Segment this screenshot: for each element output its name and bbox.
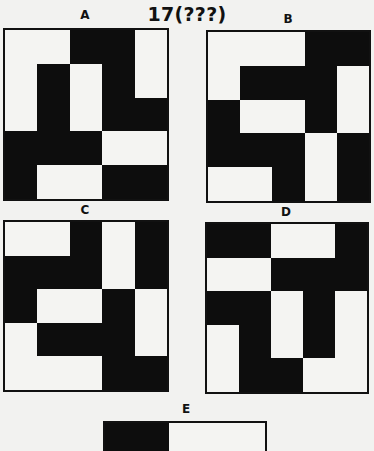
grid-cell [102, 30, 134, 64]
grid-cell [102, 165, 134, 199]
grid-cell [5, 356, 37, 390]
grid-cell [37, 289, 69, 323]
panel-label-b: B [278, 12, 298, 26]
puzzle-title: 17(???) [0, 3, 374, 25]
grid-cell [5, 64, 37, 98]
grid-cell [240, 32, 272, 66]
grid-cell [272, 133, 304, 167]
grid-cell [201, 423, 233, 451]
panel-a[interactable] [3, 28, 169, 201]
panel-d[interactable] [205, 222, 369, 394]
grid-cell [208, 133, 240, 167]
grid-cell [271, 258, 303, 292]
grid-cell [233, 423, 265, 451]
grid-cell [135, 289, 167, 323]
grid-cell [337, 66, 369, 100]
grid-cell [135, 323, 167, 357]
grid-cell [70, 289, 102, 323]
grid-cell [135, 30, 167, 64]
grid-cell [271, 358, 303, 392]
grid-cell [135, 222, 167, 256]
panel-c[interactable] [3, 220, 169, 392]
grid-cell [337, 167, 369, 201]
grid-cell [239, 291, 271, 325]
grid-cell [135, 256, 167, 290]
grid-cell [5, 131, 37, 165]
grid-cell [239, 258, 271, 292]
grid-cell [335, 291, 367, 325]
grid-cell [207, 325, 239, 359]
grid-cell [70, 131, 102, 165]
grid-cell [37, 356, 69, 390]
grid-cell [303, 358, 335, 392]
grid-cell [37, 323, 69, 357]
grid-cell [135, 64, 167, 98]
grid-cell [5, 222, 37, 256]
grid-cell [70, 323, 102, 357]
panel-b[interactable] [206, 30, 371, 203]
grid-cell [271, 325, 303, 359]
grid-cell [5, 256, 37, 290]
grid-cell [303, 224, 335, 258]
grid-cell [169, 423, 201, 451]
grid-cell [102, 356, 134, 390]
grid-cell [37, 131, 69, 165]
grid-cell [70, 256, 102, 290]
grid-cell [208, 32, 240, 66]
grid-cell [102, 323, 134, 357]
grid-cell [337, 133, 369, 167]
grid-cell [207, 358, 239, 392]
grid-cell [239, 358, 271, 392]
grid-cell [70, 30, 102, 64]
grid-cell [272, 100, 304, 134]
grid-cell [37, 98, 69, 132]
grid-cell [102, 256, 134, 290]
grid-cell [5, 98, 37, 132]
grid-cell [70, 165, 102, 199]
grid-cell [335, 224, 367, 258]
grid-cell [207, 224, 239, 258]
grid-cell [70, 98, 102, 132]
grid-cell [102, 98, 134, 132]
grid-cell [272, 66, 304, 100]
grid-cell [37, 256, 69, 290]
grid-cell [135, 131, 167, 165]
grid-cell [272, 32, 304, 66]
grid-cell [335, 258, 367, 292]
panel-label-a: A [75, 8, 95, 22]
panel-label-c: C [75, 203, 95, 217]
grid-cell [37, 30, 69, 64]
grid-cell [271, 291, 303, 325]
grid-cell [240, 167, 272, 201]
grid-cell [70, 356, 102, 390]
grid-cell [240, 66, 272, 100]
grid-cell [102, 289, 134, 323]
grid-cell [239, 325, 271, 359]
grid-cell [137, 423, 169, 451]
grid-cell [208, 167, 240, 201]
grid-cell [70, 64, 102, 98]
grid-cell [70, 222, 102, 256]
grid-cell [240, 133, 272, 167]
grid-cell [37, 64, 69, 98]
grid-cell [303, 258, 335, 292]
grid-cell [239, 224, 271, 258]
grid-cell [5, 30, 37, 64]
grid-cell [335, 358, 367, 392]
grid-cell [303, 291, 335, 325]
grid-cell [305, 32, 337, 66]
grid-cell [208, 66, 240, 100]
grid-cell [240, 100, 272, 134]
panel-label-e: E [176, 402, 196, 416]
panel-label-d: D [276, 205, 296, 219]
grid-cell [135, 98, 167, 132]
grid-cell [135, 356, 167, 390]
panel-e[interactable] [103, 421, 267, 451]
grid-cell [337, 32, 369, 66]
grid-cell [135, 165, 167, 199]
grid-cell [102, 64, 134, 98]
grid-cell [208, 100, 240, 134]
grid-cell [305, 167, 337, 201]
grid-cell [305, 66, 337, 100]
grid-cell [105, 423, 137, 451]
